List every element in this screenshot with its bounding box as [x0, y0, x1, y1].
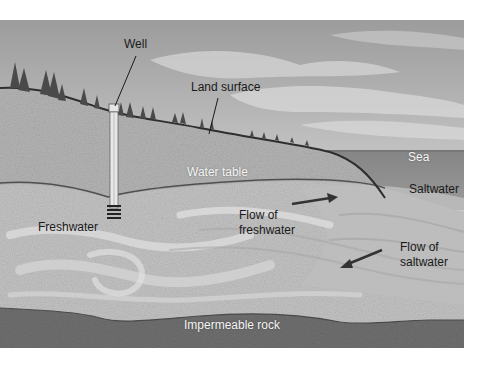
- label-flow-of-saltwater-line1: Flow of: [400, 240, 448, 255]
- label-water-table: Water table: [187, 166, 248, 179]
- label-flow-of-freshwater-line2: freshwater: [239, 223, 295, 238]
- label-well: Well: [124, 38, 147, 51]
- label-flow-of-freshwater: Flow of freshwater: [239, 208, 295, 238]
- label-sea: Sea: [408, 151, 429, 164]
- label-flow-of-saltwater-line2: saltwater: [400, 255, 448, 270]
- aquifer-diagram: Well Land surface Water table Sea Saltwa…: [0, 20, 464, 348]
- label-flow-of-saltwater: Flow of saltwater: [400, 240, 448, 270]
- label-flow-of-freshwater-line1: Flow of: [239, 208, 295, 223]
- label-impermeable-rock: Impermeable rock: [184, 319, 280, 332]
- label-land-surface: Land surface: [191, 81, 260, 94]
- label-freshwater: Freshwater: [38, 221, 98, 234]
- label-saltwater: Saltwater: [409, 183, 459, 196]
